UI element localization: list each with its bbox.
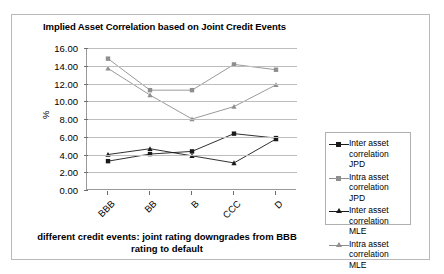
x-tick-mark: [275, 191, 276, 195]
data-point-marker: [106, 56, 110, 60]
y-tick-mark: [84, 66, 88, 67]
triangle-marker-icon: [329, 206, 349, 217]
x-tick-label: CCC: [210, 198, 243, 231]
gridline: [87, 137, 297, 138]
x-axis-caption: different credit events: joint rating do…: [28, 231, 306, 255]
gridline: [87, 155, 297, 156]
chart-legend: Inter asset correlation JPDIntra asset c…: [325, 132, 411, 225]
legend-label: Inter asset correlation JPD: [349, 138, 407, 170]
y-tick-label: 10.00: [38, 96, 78, 107]
y-tick-label: 0.00: [38, 185, 78, 196]
data-point-marker: [231, 104, 236, 109]
y-tick-label: 16.00: [38, 43, 78, 54]
data-point-marker: [106, 159, 110, 163]
data-point-marker: [190, 149, 194, 153]
x-tick-label: BBB: [84, 198, 117, 231]
plot-area: [86, 48, 296, 190]
legend-item[interactable]: Inter asset correlation MLE: [329, 205, 407, 237]
legend-label: Inter asset correlation MLE: [349, 205, 407, 237]
y-tick-mark: [84, 84, 88, 85]
y-axis-title: %: [40, 111, 51, 119]
x-tick-mark: [107, 191, 108, 195]
legend-item[interactable]: Inter asset correlation JPD: [329, 138, 407, 170]
series-line: [108, 59, 276, 91]
y-tick-mark: [84, 155, 88, 156]
y-tick-mark: [84, 172, 88, 173]
legend-item[interactable]: Intra asset correlation MLE: [329, 239, 407, 271]
x-axis-tick-labels: BBBBBBCCCD: [86, 191, 296, 225]
series-line: [108, 68, 276, 119]
legend-label: Intra asset correlation MLE: [349, 239, 407, 271]
data-point-marker: [148, 88, 152, 92]
gridline: [87, 101, 297, 102]
data-point-marker: [190, 88, 194, 92]
x-tick-mark: [149, 191, 150, 195]
y-tick-label: 4.00: [38, 149, 78, 160]
y-tick-label: 2.00: [38, 167, 78, 178]
gridline: [87, 66, 297, 67]
legend-label: Intra asset correlation JPD: [349, 172, 407, 204]
y-tick-label: 14.00: [38, 60, 78, 71]
y-tick-mark: [84, 101, 88, 102]
legend-item[interactable]: Intra asset correlation JPD: [329, 172, 407, 204]
gridline: [87, 172, 297, 173]
data-point-marker: [147, 92, 152, 97]
gridline: [87, 48, 297, 49]
square-marker-icon: [329, 139, 349, 150]
y-tick-label: 6.00: [38, 131, 78, 142]
x-tick-mark: [233, 191, 234, 195]
y-axis-tick-labels: 0.002.004.006.008.0010.0012.0014.0016.00: [38, 48, 78, 190]
y-tick-mark: [84, 137, 88, 138]
x-tick-label: D: [252, 198, 285, 231]
x-tick-mark: [191, 191, 192, 195]
chart-frame: Implied Asset Correlation based on Joint…: [11, 14, 430, 260]
triangle-marker-icon: [329, 240, 349, 251]
data-point-marker: [232, 131, 236, 135]
gridline: [87, 119, 297, 120]
y-tick-label: 12.00: [38, 78, 78, 89]
square-marker-icon: [329, 173, 349, 184]
x-tick-label: B: [168, 198, 201, 231]
data-point-marker: [274, 68, 278, 72]
y-tick-mark: [84, 48, 88, 49]
x-tick-label: BB: [126, 198, 159, 231]
y-tick-mark: [84, 119, 88, 120]
gridline: [87, 84, 297, 85]
